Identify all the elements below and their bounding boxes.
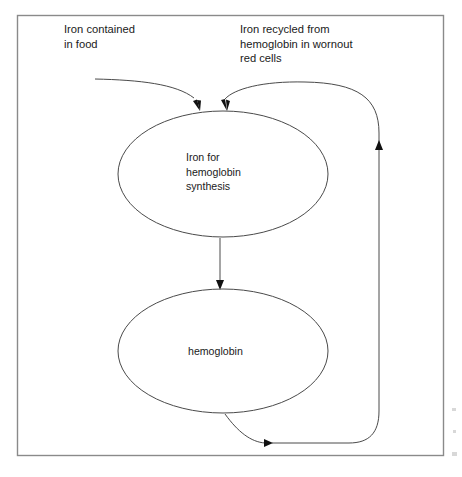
arrowhead-recycled-to-synthesis	[221, 99, 227, 111]
node-label-line: hemoglobin	[186, 166, 241, 178]
arrowhead-recycle-riser	[375, 140, 383, 150]
annotation-line: Iron recycled from	[240, 23, 330, 35]
diagram-page: Iron contained in food Iron recycled fro…	[0, 0, 462, 477]
node-label-line: synthesis	[186, 180, 230, 192]
annotation-iron-in-food: Iron contained in food	[0, 0, 157, 50]
outer-border	[18, 16, 444, 456]
node-label-hemoglobin: hemoglobin	[0, 0, 258, 357]
annotation-line: red cells	[240, 52, 282, 64]
node-label-line: Iron for	[186, 151, 220, 163]
edge-hemoglobin-to-return	[225, 414, 265, 443]
scan-artifact	[453, 430, 456, 433]
edge-recycled-to-synthesis	[225, 82, 379, 133]
arrowhead-synthesis-to-hemoglobin	[216, 280, 224, 290]
scan-artifact	[452, 408, 456, 411]
scan-artifact	[452, 452, 457, 456]
annotation-iron-recycled: Iron recycled from hemoglobin in wornout…	[0, 0, 374, 64]
annotation-line: hemoglobin in wornout	[240, 38, 353, 50]
annotation-line: in food	[64, 38, 98, 50]
annotation-line: Iron contained	[64, 23, 135, 35]
iron-cycle-diagram: Iron contained in food Iron recycled fro…	[0, 0, 462, 477]
node-label-line: hemoglobin	[188, 345, 243, 357]
edge-food-to-synthesis	[95, 79, 194, 98]
edge-recycle-riser	[271, 133, 379, 443]
